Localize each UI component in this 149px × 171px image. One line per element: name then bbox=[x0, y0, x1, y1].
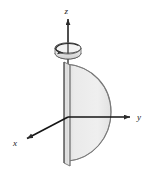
x-axis: x bbox=[12, 117, 68, 148]
vertical-plate bbox=[64, 62, 70, 166]
semicircular-region bbox=[66, 64, 111, 161]
y-axis-label: y bbox=[136, 112, 141, 122]
rotation-arrow bbox=[55, 43, 81, 59]
solid-of-revolution-diagram: y x z bbox=[0, 0, 149, 171]
x-axis-label: x bbox=[12, 138, 17, 148]
z-axis-upper-segment: z bbox=[64, 6, 69, 43]
figure-canvas: y x z bbox=[0, 0, 149, 171]
z-axis-label: z bbox=[64, 6, 69, 16]
